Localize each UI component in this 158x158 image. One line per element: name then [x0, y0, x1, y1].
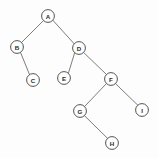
- tree-node-h[interactable]: H: [106, 137, 119, 150]
- tree-edge-a-b: [22, 21, 44, 43]
- node-label-a: A: [46, 13, 51, 20]
- node-label-e: E: [62, 75, 66, 82]
- tree-edge-f-g: [85, 84, 107, 107]
- tree-edge-b-c: [21, 53, 30, 75]
- tree-node-c[interactable]: C: [27, 74, 40, 87]
- binary-tree-diagram: ABCDEFGHI: [0, 0, 158, 158]
- tree-node-g[interactable]: G: [74, 105, 87, 118]
- tree-node-i[interactable]: I: [136, 104, 149, 117]
- node-label-f: F: [109, 76, 113, 83]
- tree-node-b[interactable]: B: [11, 41, 24, 54]
- tree-edge-g-h: [84, 116, 108, 139]
- node-label-d: D: [77, 45, 82, 52]
- node-label-i: I: [141, 107, 143, 114]
- tree-edge-d-e: [68, 53, 74, 74]
- tree-edge-a-d: [53, 20, 75, 44]
- tree-canvas: ABCDEFGHI: [0, 0, 158, 158]
- node-label-g: G: [78, 108, 83, 115]
- node-label-c: C: [31, 77, 36, 84]
- tree-node-e[interactable]: E: [58, 72, 71, 85]
- tree-nodes-group: ABCDEFGHI: [11, 10, 149, 150]
- tree-node-f[interactable]: F: [105, 73, 118, 86]
- node-label-h: H: [110, 140, 115, 147]
- tree-node-a[interactable]: A: [42, 10, 55, 23]
- tree-edge-d-f: [84, 53, 107, 75]
- tree-edge-f-i: [115, 83, 138, 105]
- node-label-b: B: [15, 44, 20, 51]
- tree-node-d[interactable]: D: [73, 42, 86, 55]
